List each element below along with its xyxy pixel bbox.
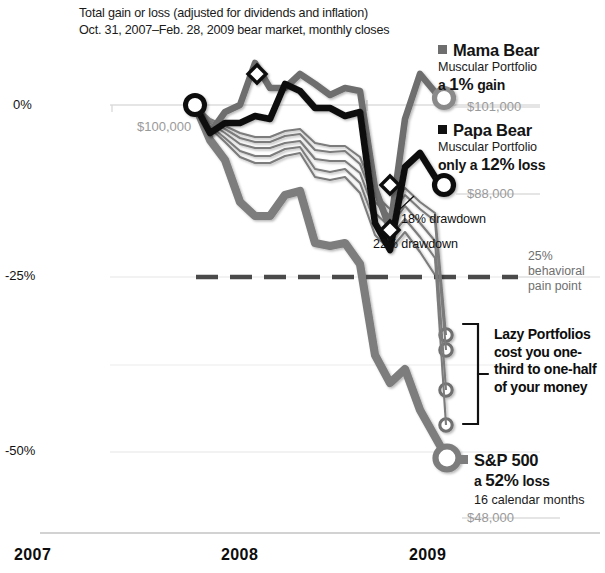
pain-point-line-3: pain point	[528, 279, 585, 294]
legend-sp500-value-pct: 52%	[485, 471, 518, 490]
legend-sp500-value-pre: a	[474, 473, 485, 489]
pain-point-line-1: 25%	[528, 249, 585, 264]
legend-papa-bear-value-post: loss	[514, 157, 545, 173]
x-axis-tick-2007: 2007	[14, 546, 51, 564]
legend-item-sp500: S&P 500 a 52% loss 16 calendar months	[459, 451, 585, 507]
legend-mama-bear-value: a 1% gain	[438, 75, 539, 95]
lazy-portfolios-bracket	[463, 324, 488, 424]
y-axis-tick-50: -50%	[5, 443, 35, 458]
sp500-line	[195, 105, 447, 458]
pain-point-line-2: behavioral	[528, 264, 585, 279]
legend-swatch-papa-bear	[438, 125, 447, 134]
papa-bear-end-marker	[435, 176, 454, 195]
legend-swatch-mama-bear	[438, 45, 447, 54]
legend-papa-bear-name: Papa Bear	[453, 121, 532, 139]
annotation-lazy-portfolios: Lazy Portfolios cost you one-third to on…	[494, 326, 598, 396]
legend-mama-bear-name: Mama Bear	[453, 41, 539, 59]
chart-title: Total gain or loss (adjusted for dividen…	[79, 5, 479, 38]
legend-sp500-title: S&P 500	[459, 451, 585, 470]
legend-sp500-value-post: loss	[519, 473, 550, 489]
chart-title-line-2: Oct. 31, 2007–Feb. 28, 2009 bear market,…	[79, 22, 479, 39]
chart-canvas: Total gain or loss (adjusted for dividen…	[0, 0, 605, 573]
papa-bear-value-label: $88,000	[467, 186, 514, 201]
legend-swatch-sp500	[459, 455, 468, 464]
legend-sp500-duration: 16 calendar months	[474, 493, 585, 507]
annotation-drawdown-18: 18% drawdown	[401, 212, 486, 226]
start-value-label: $100,000	[137, 119, 191, 134]
annotation-pain-point: 25% behavioral pain point	[528, 249, 585, 294]
legend-sp500-value: a 52% loss	[474, 471, 585, 491]
legend-mama-bear-subtitle: Muscular Portfolio	[438, 60, 539, 74]
legend-mama-bear-title: Mama Bear	[438, 41, 539, 60]
annotation-drawdown-22: 22% drawdown	[373, 237, 458, 251]
sp500-end-marker	[436, 447, 459, 470]
legend-item-mama-bear: Mama Bear Muscular Portfolio a 1% gain	[438, 41, 539, 95]
legend-mama-bear-value-pre: a	[438, 77, 449, 93]
sp500-value-label: $48,000	[467, 510, 514, 525]
x-axis-tick-2009: 2009	[409, 546, 446, 564]
x-axis-tick-2008: 2008	[221, 546, 258, 564]
legend-papa-bear-title: Papa Bear	[438, 121, 545, 140]
legend-papa-bear-subtitle: Muscular Portfolio	[438, 140, 545, 154]
legend-sp500-name: S&P 500	[474, 451, 538, 469]
chart-title-line-1: Total gain or loss (adjusted for dividen…	[79, 5, 479, 22]
legend-mama-bear-value-post: gain	[473, 77, 505, 93]
legend-item-papa-bear: Papa Bear Muscular Portfolio only a 12% …	[438, 121, 545, 175]
mama-bear-value-label: $101,000	[467, 99, 521, 114]
legend-papa-bear-value-pct: 12%	[481, 155, 514, 174]
legend-papa-bear-value-pre: only a	[438, 157, 481, 173]
legend-mama-bear-value-pct: 1%	[449, 75, 473, 94]
y-axis-tick-0: 0%	[13, 97, 32, 112]
y-axis-tick-25: -25%	[5, 268, 35, 283]
mama-bear-line	[195, 63, 440, 229]
legend-papa-bear-value: only a 12% loss	[438, 155, 545, 175]
start-point-marker	[186, 96, 205, 115]
